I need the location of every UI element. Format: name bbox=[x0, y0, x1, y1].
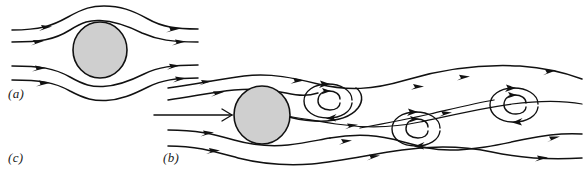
panel-label-c: (c) bbox=[8, 150, 23, 166]
arrowhead-vortex-1-inner bbox=[321, 88, 331, 95]
vortex-2-group bbox=[392, 109, 440, 150]
arrowhead-b-wake-8 bbox=[547, 137, 560, 143]
arrowhead-b-wake-6 bbox=[457, 75, 470, 81]
arrowhead-b-wake-7 bbox=[543, 70, 556, 76]
panel-b-group bbox=[154, 66, 582, 165]
streamline-b-shear-top bbox=[286, 101, 582, 126]
vortex-1-outer bbox=[304, 84, 352, 118]
vortex-3-outer bbox=[490, 88, 538, 122]
arrowhead-b-wake-3 bbox=[339, 139, 352, 145]
streamline-b-1 bbox=[168, 66, 582, 89]
arrowhead-vortex-3-inner bbox=[507, 92, 517, 99]
cylinder-b bbox=[234, 86, 290, 144]
panel-label-a: (a) bbox=[8, 86, 24, 102]
figure-root: (a) (b) (c) bbox=[0, 0, 584, 182]
vortex-2-inner bbox=[406, 119, 428, 138]
panel-label-b: (b) bbox=[163, 150, 179, 166]
arrowhead-b-wake-10 bbox=[411, 84, 424, 90]
vortex-1-inner bbox=[318, 91, 340, 110]
panel-a-group bbox=[12, 6, 198, 101]
vortex-3-group bbox=[490, 85, 538, 126]
cylinder-a bbox=[73, 22, 127, 78]
flow-diagram-canvas bbox=[0, 0, 584, 182]
